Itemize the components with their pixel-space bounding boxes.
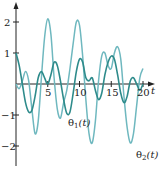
x-tick-label-5: 5 (45, 87, 51, 98)
x-tick-label-10: 10 (74, 87, 87, 98)
chart: 2 1 −1 −2 5 10 15 20 t θ1(t) θ2(t) (0, 0, 160, 172)
x-tick-label-15: 15 (106, 87, 119, 98)
y-tick-label-neg2: −2 (1, 141, 16, 152)
y-tick-label-1: 1 (4, 48, 10, 59)
y-tick-label-2: 2 (4, 17, 10, 28)
x-axis-label: t (151, 85, 156, 96)
series-label-theta2: θ2(t) (136, 149, 158, 162)
y-axis-arrow-icon (14, 2, 19, 9)
y-tick-label-neg1: −1 (1, 110, 16, 121)
series-label-theta1: θ1(t) (68, 117, 90, 130)
x-tick-label-20: 20 (137, 87, 150, 98)
